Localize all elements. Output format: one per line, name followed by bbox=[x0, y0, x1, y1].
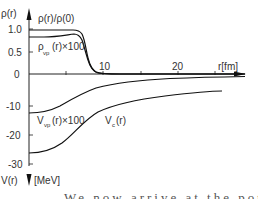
curve-rho-vp bbox=[29, 34, 245, 74]
svg-text:vp: vp bbox=[44, 122, 51, 128]
y-ticks bbox=[29, 29, 33, 164]
y-axis-arrow-up-icon bbox=[27, 8, 32, 20]
svg-text:(r): (r) bbox=[116, 115, 126, 126]
y-tick-label-m20: -20 bbox=[6, 130, 21, 141]
body-text-line: We now arrive at the potential of the bbox=[64, 190, 258, 199]
curve-rho-ratio bbox=[29, 30, 245, 74]
svg-text:(r)×100: (r)×100 bbox=[52, 41, 85, 52]
label-rho-vp: ρ vp (r)×100 bbox=[38, 41, 85, 56]
y-tick-label-0: 0 bbox=[14, 69, 20, 80]
chart: 10 20 1.0 0.5 0 -10 -20 -30 ρ(r) V(r) [M… bbox=[0, 0, 258, 199]
y-axis-arrow-down-icon bbox=[27, 174, 32, 186]
y-tick-label-m10: -10 bbox=[6, 101, 21, 112]
x-axis-label: r[fm] bbox=[218, 61, 238, 72]
curve-v-vp bbox=[29, 77, 245, 114]
y-tick-label-1-0: 1.0 bbox=[8, 24, 22, 35]
svg-text:V: V bbox=[37, 115, 44, 126]
y-tick-label-0-5: 0.5 bbox=[8, 47, 22, 58]
svg-text:(r)×100: (r)×100 bbox=[52, 115, 85, 126]
y-axis-label-upper: ρ(r) bbox=[1, 8, 17, 19]
y-axis-label-lower-b: [MeV] bbox=[34, 175, 60, 186]
label-v-c: V c (r) bbox=[105, 115, 126, 128]
svg-text:c: c bbox=[112, 122, 115, 128]
y-axis-label-lower-a: V(r) bbox=[1, 175, 18, 186]
y-tick-label-m30: -30 bbox=[8, 159, 23, 170]
svg-text:V: V bbox=[105, 115, 112, 126]
x-tick-label-20: 20 bbox=[172, 61, 184, 72]
x-tick-label-10: 10 bbox=[99, 61, 111, 72]
label-rho-ratio: ρ(r)/ρ(0) bbox=[38, 13, 74, 24]
svg-text:vp: vp bbox=[43, 50, 50, 56]
label-v-vp: V vp (r)×100 bbox=[37, 115, 85, 128]
